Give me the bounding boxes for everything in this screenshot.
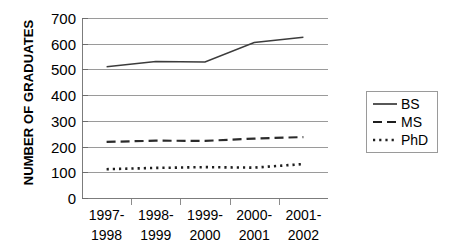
legend-item-phd[interactable]: PhD xyxy=(367,131,437,149)
x-axis-tick-label-line: 2000- xyxy=(230,206,279,226)
y-axis-tick-mark xyxy=(82,18,88,19)
y-axis-tick-mark xyxy=(82,172,88,173)
y-axis-tick-labels: 7006005004003002001000 xyxy=(26,18,76,198)
x-axis-tick-label-line: 1999- xyxy=(180,206,229,226)
line-chart: NUMBER OF GRADUATES 70060050040030020010… xyxy=(0,0,455,251)
x-axis-tick-label-line: 1999 xyxy=(131,226,180,246)
legend-label: BS xyxy=(401,97,420,111)
series-lines xyxy=(82,18,328,198)
legend-item-bs[interactable]: BS xyxy=(367,95,437,113)
legend-swatch-solid-icon xyxy=(372,99,398,109)
x-axis-tick-label-line: 1998- xyxy=(131,206,180,226)
x-axis-tick-mark xyxy=(279,199,280,205)
y-axis-tick-mark xyxy=(82,121,88,122)
legend-label: PhD xyxy=(401,133,428,147)
series-line-phd xyxy=(107,164,304,169)
y-axis-tick-label: 500 xyxy=(51,62,76,77)
x-axis-tick-mark xyxy=(180,199,181,205)
legend: BSMSPhD xyxy=(366,91,438,153)
series-line-bs xyxy=(107,37,304,67)
y-axis-tick-label: 100 xyxy=(51,165,76,180)
x-axis-tick-label: 2000-2001 xyxy=(230,206,279,248)
gridline xyxy=(82,198,328,199)
x-axis-tick-label: 1997-1998 xyxy=(82,206,131,248)
x-axis-tick-label-line: 1997- xyxy=(82,206,131,226)
y-axis-tick-mark xyxy=(82,44,88,45)
x-axis-tick-labels: 1997-19981998-19991999-20002000-20012001… xyxy=(82,206,328,248)
x-axis-tick-label: 1998-1999 xyxy=(131,206,180,248)
x-axis-tick-label-line: 2002 xyxy=(279,226,328,246)
y-axis-tick-label: 0 xyxy=(68,191,76,206)
x-axis-tick-label-line: 1998 xyxy=(82,226,131,246)
series-layer xyxy=(82,18,328,198)
legend-swatch-dotted-icon xyxy=(372,135,398,145)
x-axis-tick-mark xyxy=(131,199,132,205)
plot-area xyxy=(82,18,328,198)
legend-label: MS xyxy=(401,115,422,129)
x-axis-tick-label: 2001-2002 xyxy=(279,206,328,248)
y-axis-tick-label: 400 xyxy=(51,88,76,103)
x-axis-tick-mark xyxy=(230,199,231,205)
y-axis-tick-mark xyxy=(82,198,88,199)
y-axis-tick-label: 700 xyxy=(51,11,76,26)
y-axis-tick-label: 300 xyxy=(51,113,76,128)
x-axis-tick-label-line: 2001 xyxy=(230,226,279,246)
y-axis-tick-mark xyxy=(82,95,88,96)
y-axis-tick-mark xyxy=(82,69,88,70)
series-line-ms xyxy=(107,137,304,142)
y-axis-tick-label: 200 xyxy=(51,139,76,154)
legend-item-ms[interactable]: MS xyxy=(367,113,437,131)
x-axis-tick-label-line: 2001- xyxy=(279,206,328,226)
y-axis-tick-label: 600 xyxy=(51,36,76,51)
legend-swatch-dashed-icon xyxy=(372,117,398,127)
x-axis-tick-label-line: 2000 xyxy=(180,226,229,246)
y-axis-tick-mark xyxy=(82,147,88,148)
x-axis-tick-label: 1999-2000 xyxy=(180,206,229,248)
